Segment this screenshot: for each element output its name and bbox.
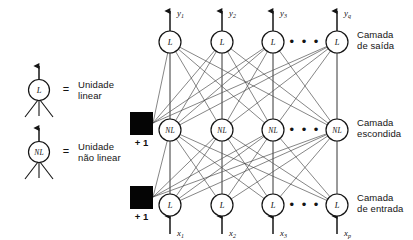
layer-entrada-label-line1: Camada xyxy=(357,192,394,203)
layer-entrada-label-line2: de entrada xyxy=(357,203,404,214)
legend-linear-label-line1: Unidade xyxy=(78,79,114,90)
network-diagram: L = Unidade linear NL = Unidade não line… xyxy=(0,0,413,240)
legend-nonlinear-equals: = xyxy=(63,145,69,157)
output-node-symbol-3: L xyxy=(270,37,276,47)
output-node-group-1: L y1 xyxy=(159,8,184,53)
legend-nonlinear-symbol: NL xyxy=(33,148,43,157)
output-signal-label-1: y1 xyxy=(176,8,184,19)
hidden-node-group-4: NL xyxy=(326,119,348,141)
legend-nonlinear-label-line1: Unidade xyxy=(78,141,114,152)
output-node-group-3: L y3 xyxy=(262,8,287,53)
output-node-symbol-1: L xyxy=(167,37,173,47)
edge-bias-hidden-output1 xyxy=(153,53,168,123)
input-layer-ellipsis: • • • xyxy=(290,197,321,212)
legend-linear-symbol: L xyxy=(36,85,42,95)
bias-node-input-label: + 1 xyxy=(135,211,149,222)
edge-bias-input-hidden1 xyxy=(153,141,167,197)
bias-node-input xyxy=(130,186,153,209)
bias-nodes: + 1 + 1 xyxy=(130,112,153,222)
legend-entry-linear: L = Unidade linear xyxy=(25,66,114,117)
hidden-node-group-1: NL xyxy=(159,119,181,141)
hidden-node-symbol-2: NL xyxy=(216,126,226,135)
legend-nonlinear-fanin-left xyxy=(25,162,38,179)
layer-escondida-label-line1: Camada xyxy=(357,117,394,128)
output-node-symbol-4: L xyxy=(334,37,340,47)
output-signal-label-4: yq xyxy=(343,8,351,19)
input-node-symbol-4: L xyxy=(334,200,340,210)
input-node-symbol-3: L xyxy=(270,200,276,210)
legend: L = Unidade linear NL = Unidade não line… xyxy=(25,66,121,179)
input-node-symbol-1: L xyxy=(167,200,173,210)
layer-entrada: L x1 L x2 L x3 • • • L xp Cam xyxy=(159,192,404,239)
layer-escondida: NL NL NL • • • NL Camada escondida xyxy=(159,117,402,141)
legend-entry-nonlinear: NL = Unidade não linear xyxy=(25,128,121,179)
legend-linear-equals: = xyxy=(63,83,69,95)
bias-node-hidden xyxy=(130,112,153,135)
input-signal-label-2: x2 xyxy=(228,228,236,239)
layer-saida: L y1 L y2 L y3 • • • L yq Cam xyxy=(159,8,395,53)
legend-nonlinear-fanin-right xyxy=(40,162,53,179)
layer-saida-label-line1: Camada xyxy=(357,29,394,40)
input-signal-label-4: xp xyxy=(343,228,351,239)
input-node-symbol-2: L xyxy=(219,200,225,210)
output-layer-ellipsis: • • • xyxy=(290,34,321,49)
hidden-node-symbol-4: NL xyxy=(331,126,341,135)
output-node-symbol-2: L xyxy=(219,37,225,47)
hidden-node-group-2: NL xyxy=(211,119,233,141)
diagram-canvas: L = Unidade linear NL = Unidade não line… xyxy=(0,0,413,240)
legend-nonlinear-label-line2: não linear xyxy=(78,152,121,163)
output-node-group-2: L y2 xyxy=(211,8,236,53)
hidden-node-symbol-3: NL xyxy=(267,126,277,135)
output-node-group-4: L yq xyxy=(326,8,351,53)
hidden-node-symbol-1: NL xyxy=(164,126,174,135)
input-signal-label-3: x3 xyxy=(279,228,287,239)
layer-escondida-label-line2: escondida xyxy=(357,128,402,139)
edge-bias-input-hidden2 xyxy=(153,138,214,197)
input-node-group-4: L xp xyxy=(326,194,351,239)
hidden-layer-ellipsis: • • • xyxy=(290,122,321,137)
legend-linear-label-line2: linear xyxy=(78,90,102,101)
hidden-node-group-3: NL xyxy=(262,119,284,141)
legend-linear-fanin-left xyxy=(25,100,38,117)
edge-bias-hidden-output2 xyxy=(153,50,215,123)
input-signal-label-1: x1 xyxy=(176,228,184,239)
layer-saida-label-line2: de saída xyxy=(357,40,395,51)
input-node-group-1: L x1 xyxy=(159,194,184,239)
input-node-group-3: L x3 xyxy=(262,194,287,239)
legend-linear-fanin-right xyxy=(40,100,53,117)
output-signal-label-3: y3 xyxy=(279,8,287,19)
output-signal-label-2: y2 xyxy=(228,8,236,19)
input-node-group-2: L x2 xyxy=(211,194,236,239)
bias-node-hidden-label: + 1 xyxy=(135,137,149,148)
